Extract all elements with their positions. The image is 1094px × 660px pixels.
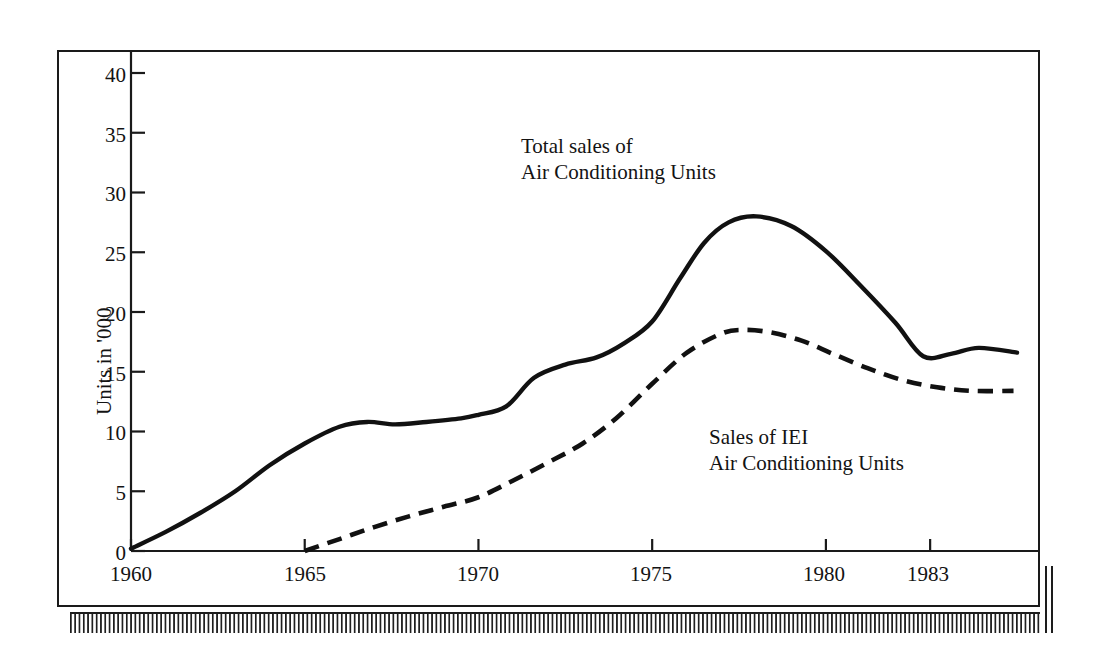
series-line-total-sales	[131, 216, 1017, 548]
x-tick-marks	[131, 539, 930, 551]
plot-lines-svg	[0, 0, 1094, 660]
series-line-iei-sales	[305, 330, 1014, 551]
chart-canvas: Units in '000 0 5 10 15 20 25 30 35 40 1…	[0, 0, 1094, 660]
y-tick-marks	[131, 73, 145, 551]
